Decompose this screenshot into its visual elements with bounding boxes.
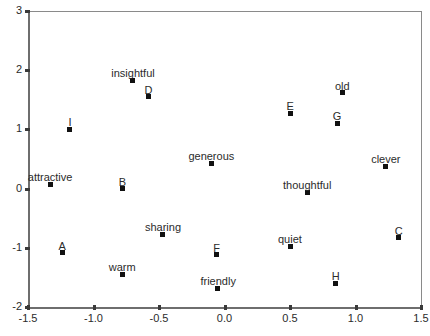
x-tick-label: 0.0 [205,313,245,324]
x-tick-label: -1.0 [74,313,114,324]
data-point-label: I [68,117,71,128]
y-tick-label: -2 [0,301,22,312]
x-tick-label: -1.5 [8,313,48,324]
x-tick [355,305,358,310]
x-tick [158,305,161,310]
y-tick [25,128,30,131]
plot-frame-top [28,11,422,12]
scatter-plot: 3210-1-2-1.5-1.0-0.50.00.51.01.5 insight… [0,0,430,336]
y-tick-label: 0 [0,183,22,194]
data-point-label: H [332,271,340,282]
y-tick-label: -1 [0,242,22,253]
x-tick [27,305,30,310]
y-tick-label: 1 [0,123,22,134]
data-point-label: F [213,243,220,254]
data-point-label: thoughtful [283,180,331,191]
x-tick [224,305,227,310]
data-point-label: G [333,111,342,122]
data-point-label: quiet [278,234,302,245]
y-tick-label: 3 [0,5,22,16]
data-point-label: A [59,241,66,252]
y-axis [28,11,30,308]
data-point-label: D [145,85,153,96]
data-point-label: generous [188,151,234,162]
data-point-label: C [395,226,403,237]
data-point-label: insightful [111,68,154,79]
data-point-label: friendly [200,276,235,287]
data-point-label: B [119,177,126,188]
data-point-label: warm [109,262,136,273]
y-tick [25,69,30,72]
x-tick-label: -0.5 [139,313,179,324]
x-tick-label: 1.0 [336,313,376,324]
x-tick [289,305,292,310]
y-tick [25,188,30,191]
x-tick [93,305,96,310]
y-tick [25,247,30,250]
data-point-label: attractive [28,172,73,183]
data-point-label: E [287,101,294,112]
x-tick [420,305,423,310]
y-tick [25,10,30,13]
x-tick-label: 1.5 [401,313,430,324]
y-tick-label: 2 [0,64,22,75]
x-tick-label: 0.5 [270,313,310,324]
data-point-label: old [335,81,350,92]
plot-frame-right [421,11,422,308]
data-point-label: clever [371,154,400,165]
data-point-label: sharing [145,222,181,233]
